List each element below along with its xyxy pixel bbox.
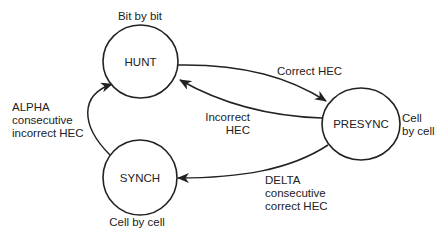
edge-presync-to-synch	[178, 145, 328, 178]
label-incorrect-hec-line1: Incorrect	[205, 111, 251, 123]
state-synch-note: Cell by cell	[109, 216, 165, 228]
label-delta-line2: consecutive	[265, 187, 326, 199]
state-synch-label: SYNCH	[120, 172, 160, 184]
label-alpha-line2: consecutive	[12, 114, 73, 126]
state-presync-note-line1: Cell	[402, 112, 422, 124]
state-presync-label: PRESYNC	[333, 118, 389, 130]
state-hunt-note: Bit by bit	[118, 10, 163, 22]
cell-delineation-state-diagram: HUNT Bit by bit PRESYNC Cell by cell SYN…	[0, 0, 442, 235]
state-presync: PRESYNC Cell by cell	[322, 88, 435, 160]
state-presync-note-line2: by cell	[402, 125, 435, 137]
label-delta-line1: DELTA	[265, 174, 301, 186]
label-delta-line3: correct HEC	[265, 200, 328, 212]
state-hunt-label: HUNT	[125, 56, 157, 68]
label-incorrect-hec-line2: HEC	[226, 124, 250, 136]
label-alpha-line3: incorrect HEC	[12, 127, 84, 139]
label-correct-hec: Correct HEC	[277, 65, 342, 77]
label-alpha-line1: ALPHA	[12, 101, 50, 113]
state-hunt: HUNT Bit by bit	[103, 10, 178, 98]
state-synch: SYNCH Cell by cell	[103, 140, 177, 228]
edge-synch-to-hunt	[88, 84, 112, 155]
edge-presync-to-hunt	[180, 80, 322, 118]
